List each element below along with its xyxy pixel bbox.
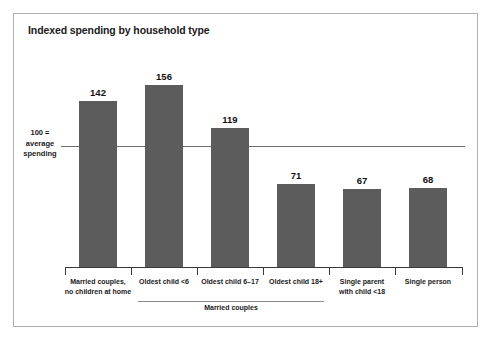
axis-tick [263, 268, 264, 275]
axis-tick [462, 268, 463, 275]
bar-value-label: 156 [131, 71, 197, 82]
bar-value-label: 67 [329, 175, 395, 186]
category-label-single-person: Single person [386, 277, 470, 287]
bar-oldest-child-18-plus[interactable] [277, 184, 315, 267]
bar-value-label: 68 [395, 174, 461, 185]
axis-tick [329, 268, 330, 275]
bar-married-no-children[interactable] [79, 101, 117, 267]
bar-slot-oldest-child-18-plus: 71 [263, 67, 329, 267]
bar-slot-single-person: 68 [395, 67, 461, 267]
reference-line-label: 100 = average spending [18, 128, 62, 160]
bar-single-parent[interactable] [343, 189, 381, 267]
bar-oldest-child-6-17[interactable] [211, 128, 249, 267]
chart-frame: Indexed spending by household type 100 =… [13, 13, 478, 327]
bar-oldest-child-under-6[interactable] [145, 85, 183, 267]
category-label-line-2: with child <18 [320, 287, 404, 297]
reference-label-line-3: spending [18, 149, 62, 160]
bar-slot-married-no-children: 142 [65, 67, 131, 267]
bar-value-label: 71 [263, 170, 329, 181]
axis-tick [65, 268, 66, 275]
category-label-line-1: Single person [386, 277, 470, 287]
baseline-axis [65, 267, 463, 268]
axis-tick [131, 268, 132, 275]
bar-slot-single-parent: 67 [329, 67, 395, 267]
bar-slot-oldest-child-under-6: 156 [131, 67, 197, 267]
bar-single-person[interactable] [409, 188, 447, 267]
plot-area: 100 = average spending 142 156 119 71 67… [14, 14, 477, 326]
reference-label-line-1: 100 = [18, 128, 62, 139]
reference-label-line-2: average [18, 139, 62, 150]
axis-tick [197, 268, 198, 275]
bar-value-label: 119 [197, 114, 263, 125]
bar-value-label: 142 [65, 87, 131, 98]
group-bracket-label: Married couples [138, 304, 324, 311]
category-label-line-2: no children at home [56, 287, 140, 297]
bar-slot-oldest-child-6-17: 119 [197, 67, 263, 267]
axis-tick [395, 268, 396, 275]
group-bracket-line [138, 301, 324, 302]
